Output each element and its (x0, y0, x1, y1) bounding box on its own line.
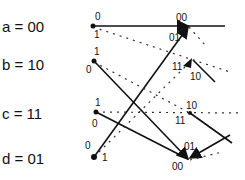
label-d-top: 0 (85, 140, 91, 151)
label-d-prime-bottom: 00 (172, 161, 184, 172)
label-a-prime-top: 00 (176, 12, 188, 23)
label-d-bottom: 1 (102, 152, 108, 163)
label-c-bottom: 0 (92, 118, 98, 129)
node-d (91, 154, 97, 160)
node-b (92, 59, 97, 64)
label-a-prime-in: 01 (169, 32, 181, 43)
node-c-prime (188, 111, 192, 115)
label-d-prime-top: 01 (184, 141, 196, 152)
branch-d-prime-in (190, 135, 230, 158)
label-c-top: 1 (95, 97, 101, 108)
label-b-prime-bottom: 10 (190, 71, 202, 82)
label-a-bottom: 1 (94, 29, 100, 40)
label-c-prime-bottom: 11 (175, 115, 186, 126)
node-b-prime (183, 58, 192, 68)
trellis-diagram: 0 1 1 0 1 0 0 1 00 01 11 10 10 11 01 00 (0, 0, 245, 180)
branch-c-prime-out (190, 113, 232, 143)
branch-a-to-c (93, 27, 230, 72)
label-b-prime-top: 11 (172, 61, 183, 72)
branch-b-to-d (94, 61, 188, 159)
branch-a-prime-dotted (189, 27, 205, 45)
label-c-prime-top: 10 (186, 100, 198, 111)
node-c (94, 110, 99, 115)
label-b-top: 1 (94, 46, 100, 57)
label-a-top: 0 (95, 11, 101, 22)
label-b-bottom: 0 (86, 64, 92, 75)
branch-c-to-c (96, 112, 242, 113)
node-a (91, 24, 96, 29)
branch-d-to-a (94, 27, 188, 157)
